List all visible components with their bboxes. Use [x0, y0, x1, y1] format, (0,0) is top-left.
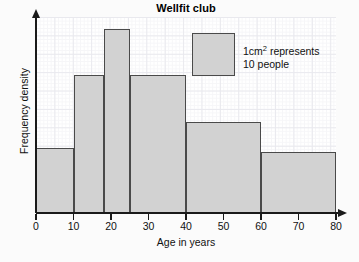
x-axis-tick — [223, 214, 224, 220]
x-axis-tick — [73, 214, 74, 220]
histogram-bar — [130, 75, 186, 213]
legend: 1cm2 represents 10 people — [192, 33, 320, 76]
x-axis-tick — [335, 214, 336, 220]
legend-line-1: 1cm2 represents — [243, 45, 320, 57]
x-axis-tick-label: 50 — [209, 220, 239, 232]
histogram-bar — [186, 122, 261, 213]
x-axis-tick-label: 40 — [171, 220, 201, 232]
chart-title: Wellfit club — [36, 2, 336, 14]
x-axis-tick — [185, 214, 186, 220]
y-axis-arrow-icon — [32, 9, 40, 18]
y-axis-title: Frequency density — [18, 41, 30, 181]
x-axis-tick-label: 20 — [96, 220, 126, 232]
x-axis-tick — [110, 214, 111, 220]
legend-unit: 1cm — [243, 45, 263, 57]
histogram-bar — [261, 152, 336, 213]
x-axis-tick — [148, 214, 149, 220]
legend-label: 1cm2 represents 10 people — [243, 33, 320, 72]
x-axis-arrow-icon — [338, 209, 347, 217]
x-axis-tick — [35, 214, 36, 220]
x-axis-tick-label: 30 — [134, 220, 164, 232]
histogram-bar — [104, 29, 130, 213]
x-axis-tick-label: 0 — [21, 220, 51, 232]
x-axis-tick — [260, 214, 261, 220]
legend-represents: represents — [267, 45, 320, 57]
x-axis-line — [36, 212, 339, 214]
x-axis-tick-label: 10 — [59, 220, 89, 232]
x-axis-title: Age in years — [36, 236, 336, 248]
x-axis-tick-label: 60 — [246, 220, 276, 232]
legend-swatch-icon — [192, 33, 235, 76]
legend-line-2: 10 people — [243, 58, 289, 70]
x-axis-tick-label: 80 — [321, 220, 351, 232]
x-axis-tick — [298, 214, 299, 220]
histogram-bar — [36, 148, 74, 213]
histogram-bar — [74, 75, 104, 213]
chart-canvas: Wellfit club 01020304050607080 Age in ye… — [0, 0, 359, 262]
x-axis-tick-label: 70 — [284, 220, 314, 232]
y-axis-line — [35, 17, 37, 213]
